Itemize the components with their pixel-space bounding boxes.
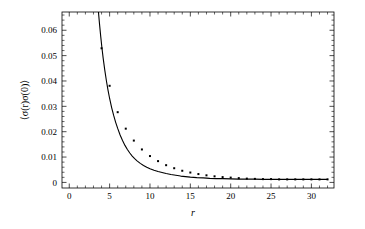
data-point bbox=[286, 178, 288, 180]
x-tick-label: 20 bbox=[226, 191, 236, 201]
data-point bbox=[270, 178, 272, 180]
x-tick-label: 0 bbox=[67, 191, 72, 201]
data-point bbox=[238, 177, 240, 179]
data-point bbox=[173, 167, 175, 169]
y-tick-label: 0.04 bbox=[41, 76, 57, 86]
data-point bbox=[318, 178, 320, 180]
x-tick-label: 30 bbox=[307, 191, 317, 201]
data-point bbox=[197, 173, 199, 175]
y-tick-label: 0.06 bbox=[41, 25, 57, 35]
y-tick-label: 0.01 bbox=[41, 152, 57, 162]
data-point bbox=[165, 164, 167, 166]
x-tick-label: 10 bbox=[145, 191, 155, 201]
data-point bbox=[117, 111, 119, 113]
data-point bbox=[246, 178, 248, 180]
data-point bbox=[149, 155, 151, 157]
data-point bbox=[310, 178, 312, 180]
data-point bbox=[222, 176, 224, 178]
data-point bbox=[189, 172, 191, 174]
y-axis-title: ⟨σ(r)σ(0)⟩ bbox=[19, 80, 31, 120]
data-point bbox=[230, 177, 232, 179]
data-point bbox=[327, 178, 329, 180]
figure-container: 051015202530 00.010.020.030.040.050.06 r… bbox=[0, 0, 365, 229]
x-tick-label: 15 bbox=[186, 191, 196, 201]
data-point bbox=[101, 47, 103, 49]
x-tick-label: 5 bbox=[107, 191, 112, 201]
data-point bbox=[205, 174, 207, 176]
y-tick-label: 0.05 bbox=[41, 51, 57, 61]
y-tick-label: 0.02 bbox=[41, 127, 57, 137]
data-point bbox=[254, 178, 256, 180]
data-point bbox=[262, 178, 264, 180]
correlation-function-plot: 051015202530 00.010.020.030.040.050.06 r… bbox=[0, 0, 365, 229]
x-tick-label: 25 bbox=[267, 191, 277, 201]
data-point bbox=[109, 85, 111, 87]
data-point bbox=[278, 178, 280, 180]
data-point bbox=[181, 170, 183, 172]
data-point bbox=[141, 148, 143, 150]
data-point bbox=[302, 178, 304, 180]
data-point bbox=[125, 128, 127, 130]
data-point bbox=[214, 175, 216, 177]
y-tick-label: 0 bbox=[53, 178, 58, 188]
data-point bbox=[294, 178, 296, 180]
data-point bbox=[157, 160, 159, 162]
y-tick-label: 0.03 bbox=[41, 102, 57, 112]
data-point bbox=[133, 140, 135, 142]
x-axis-title: r bbox=[191, 207, 195, 218]
